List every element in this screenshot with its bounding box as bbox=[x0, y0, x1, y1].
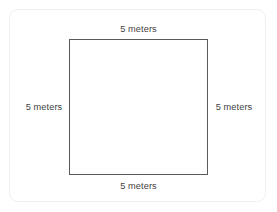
side-label-right: 5 meters bbox=[208, 102, 260, 113]
side-label-top: 5 meters bbox=[10, 24, 267, 35]
square-shape bbox=[69, 39, 208, 175]
side-label-left: 5 meters bbox=[18, 102, 70, 113]
side-label-bottom: 5 meters bbox=[10, 181, 267, 192]
diagram-card: 5 meters 5 meters 5 meters 5 meters bbox=[9, 9, 266, 202]
